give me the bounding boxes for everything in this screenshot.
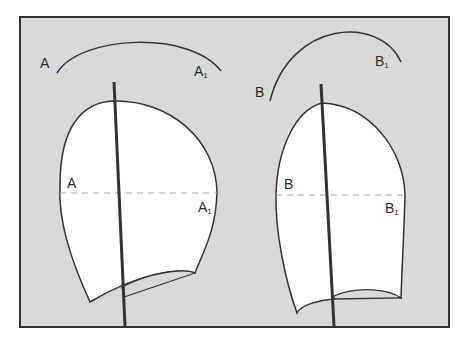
left-arc-label-a: A xyxy=(40,55,50,71)
sleeve-pattern-diagram: A A1 A A1 B B1 xyxy=(0,0,466,343)
left-line-label-a: A xyxy=(67,175,77,191)
right-arc-label-b: B xyxy=(255,84,264,100)
right-line-label-b: B xyxy=(284,176,293,192)
